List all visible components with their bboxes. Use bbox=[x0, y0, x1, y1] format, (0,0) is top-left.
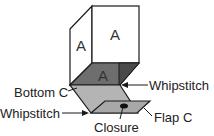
flap-c-leader bbox=[144, 108, 152, 116]
arrowhead-icon bbox=[82, 110, 89, 116]
whipstitch-right-label: Whipstitch bbox=[149, 79, 209, 92]
bottom-c-label: Bottom C bbox=[14, 86, 68, 99]
flap-c-label: Flap C bbox=[154, 111, 192, 124]
front-face-label: A bbox=[110, 26, 120, 43]
bottom-face-label: A bbox=[98, 67, 108, 84]
bottom-face-shadow bbox=[119, 63, 139, 85]
side-face-label: A bbox=[76, 37, 86, 54]
whipstitch-left-label: Whipstitch bbox=[0, 107, 60, 120]
closure-dot bbox=[120, 104, 128, 109]
closure-label: Closure bbox=[94, 121, 139, 134]
